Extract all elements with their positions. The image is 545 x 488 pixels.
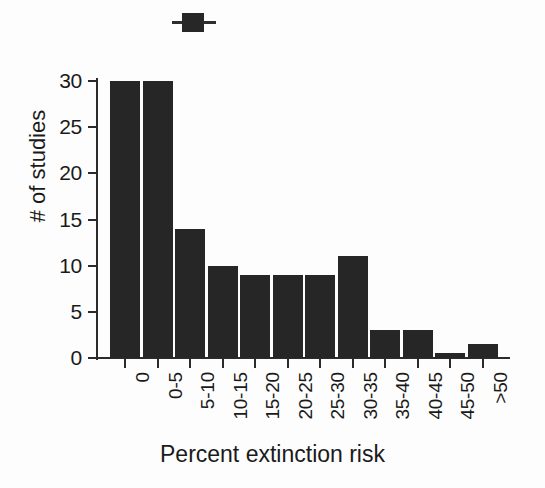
x-tick-label: 0-5 (166, 372, 185, 399)
x-tick-label: 20-25 (296, 372, 315, 420)
bar-chart-figure: # of studies 051015202530 00-55-1010-151… (0, 0, 545, 488)
x-tick-label: 30-35 (361, 372, 380, 420)
x-axis-title: Percent extinction risk (0, 443, 545, 466)
x-tick-label: 40-45 (426, 372, 445, 420)
x-tick-label: 10-15 (231, 372, 250, 420)
x-tick-label: >50 (491, 372, 510, 404)
x-tick-label-group: 00-55-1010-1515-2020-2525-3030-3535-4040… (0, 0, 545, 488)
x-tick-label: 45-50 (458, 372, 477, 420)
x-tick-label: 5-10 (198, 372, 217, 409)
x-tick-label: 25-30 (328, 372, 347, 420)
x-tick-label: 35-40 (393, 372, 412, 420)
x-tick-label: 0 (133, 372, 152, 382)
x-tick-label: 15-20 (263, 372, 282, 420)
